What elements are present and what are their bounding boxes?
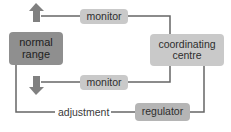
monitor-top-box: monitor	[80, 9, 128, 24]
normal-range-label-line1: normal	[19, 37, 53, 49]
normal-range-box: normal range	[9, 32, 63, 65]
coordinating-centre-label-line2: centre	[172, 50, 201, 61]
regulator-box: regulator	[135, 103, 190, 121]
coordinating-centre-box: coordinating centre	[150, 34, 224, 66]
adjustment-label: adjustment	[56, 105, 111, 119]
connector-centre-to-regulator	[190, 66, 204, 112]
arrow-down-icon	[29, 76, 44, 95]
arrow-up-icon	[29, 3, 44, 22]
connector-monitor-bottom-to-centre	[128, 66, 170, 82]
monitor-bottom-box: monitor	[80, 75, 128, 90]
connector-monitor-top-to-centre	[128, 16, 170, 34]
monitor-top-label: monitor	[86, 11, 121, 22]
regulator-label: regulator	[142, 106, 183, 117]
normal-range-label-line2: range	[22, 49, 50, 61]
monitor-bottom-label: monitor	[86, 77, 121, 88]
